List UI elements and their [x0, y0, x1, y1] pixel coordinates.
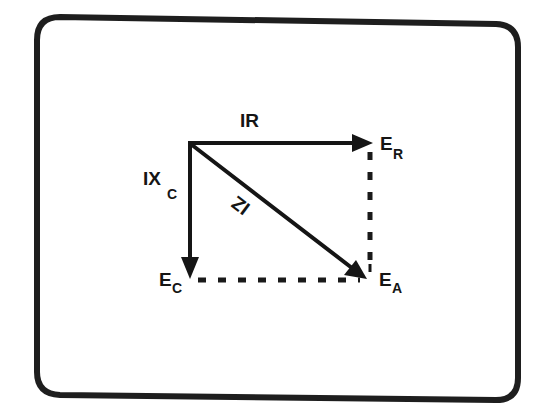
label-ea: E A	[379, 269, 402, 296]
ixc-arrowhead-icon	[181, 257, 199, 279]
svg-text:C: C	[172, 280, 182, 296]
svg-text:A: A	[392, 280, 402, 296]
label-ir: IR	[240, 110, 259, 131]
svg-text:E: E	[380, 133, 393, 154]
svg-text:E: E	[159, 269, 172, 290]
svg-text:IX: IX	[143, 168, 161, 189]
label-ec: E C	[159, 269, 182, 296]
iz-vector	[192, 145, 367, 279]
svg-text:E: E	[379, 269, 392, 290]
ir-vector	[191, 134, 373, 152]
label-iz: IZ	[227, 192, 253, 219]
ir-arrowhead-icon	[352, 134, 373, 152]
ixc-vector	[181, 143, 199, 279]
label-ixc: IX C	[143, 168, 177, 202]
svg-text:C: C	[167, 186, 177, 202]
svg-text:R: R	[393, 146, 403, 162]
label-er: E R	[380, 133, 403, 162]
phasor-diagram: IR IX C IZ E R E C E A	[0, 0, 538, 416]
